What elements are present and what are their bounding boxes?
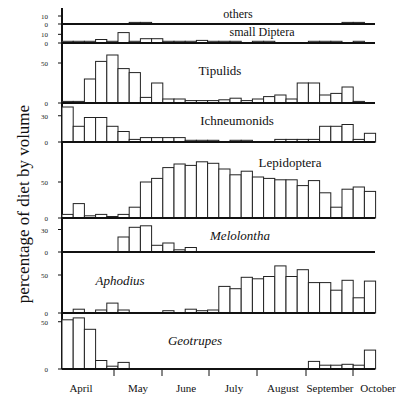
bar bbox=[84, 118, 95, 143]
bar bbox=[308, 181, 319, 218]
bar bbox=[62, 320, 73, 369]
bar bbox=[308, 361, 319, 369]
bar bbox=[320, 126, 331, 142]
x-month-label: June bbox=[176, 382, 196, 394]
x-month-label: July bbox=[225, 382, 244, 394]
bar bbox=[196, 162, 207, 218]
bar bbox=[174, 164, 185, 218]
x-month-label: August bbox=[267, 382, 299, 394]
bar bbox=[364, 133, 375, 142]
bar bbox=[252, 177, 263, 218]
bar bbox=[308, 83, 319, 103]
bar bbox=[129, 73, 140, 103]
bar bbox=[331, 207, 342, 218]
bar bbox=[275, 180, 286, 218]
bar bbox=[286, 180, 297, 218]
y-tick-label: 0 bbox=[45, 139, 49, 147]
bar bbox=[364, 350, 375, 369]
bar bbox=[152, 178, 163, 218]
bar bbox=[331, 290, 342, 313]
bar bbox=[140, 182, 151, 218]
bar bbox=[73, 318, 84, 369]
bar bbox=[107, 303, 118, 313]
bar bbox=[129, 227, 140, 252]
bar bbox=[219, 286, 230, 313]
bar bbox=[353, 298, 364, 313]
bar bbox=[185, 165, 196, 218]
bar bbox=[264, 178, 275, 218]
y-tick-label: 10 bbox=[41, 13, 49, 21]
bar bbox=[107, 126, 118, 142]
bar bbox=[264, 277, 275, 314]
bar bbox=[140, 226, 151, 252]
panel-label: Geotrupes bbox=[168, 333, 222, 348]
bar bbox=[275, 95, 286, 103]
bar bbox=[241, 171, 252, 218]
bar bbox=[84, 329, 95, 369]
y-tick-label: 50 bbox=[41, 179, 49, 187]
bar bbox=[84, 79, 95, 103]
bar bbox=[219, 169, 230, 218]
bar bbox=[320, 95, 331, 103]
y-tick-label: 50 bbox=[41, 272, 49, 280]
x-month-label: September bbox=[306, 382, 353, 394]
y-tick-label: 50 bbox=[41, 319, 49, 327]
bar bbox=[286, 277, 297, 314]
bar bbox=[129, 207, 140, 218]
bar bbox=[208, 163, 219, 218]
y-tick-label: 0 bbox=[45, 249, 49, 257]
bar bbox=[96, 361, 107, 370]
y-tick-label: 30 bbox=[41, 113, 49, 121]
bar bbox=[241, 277, 252, 313]
panel-label: others bbox=[223, 7, 253, 21]
bar bbox=[96, 118, 107, 143]
bar bbox=[73, 126, 84, 142]
bar bbox=[364, 191, 375, 218]
bar bbox=[118, 132, 129, 143]
bar bbox=[297, 270, 308, 313]
bar bbox=[320, 193, 331, 218]
bar bbox=[353, 187, 364, 218]
bar bbox=[163, 243, 174, 252]
bar bbox=[230, 175, 241, 218]
bar bbox=[342, 189, 353, 218]
x-month-label: October bbox=[360, 382, 396, 394]
bar bbox=[73, 204, 84, 218]
y-tick-label: 0 bbox=[45, 40, 49, 48]
panel-label: Aphodius bbox=[94, 273, 144, 288]
bar bbox=[297, 83, 308, 103]
bar bbox=[118, 33, 129, 43]
panel-others: 010others bbox=[41, 7, 375, 29]
bar bbox=[107, 55, 118, 103]
bar bbox=[152, 83, 163, 103]
y-tick-label: 50 bbox=[41, 60, 49, 68]
y-tick-label: 0 bbox=[45, 21, 49, 29]
panel-lepidoptera: 050Lepidoptera bbox=[41, 155, 376, 223]
panel-aphodius: 050Aphodius bbox=[41, 266, 376, 318]
bar bbox=[118, 69, 129, 103]
y-tick-label: 0 bbox=[45, 310, 49, 318]
panel-label: Lepidoptera bbox=[259, 155, 322, 170]
bar bbox=[342, 87, 353, 103]
x-month-label: May bbox=[128, 382, 149, 394]
panel-tipulids: 050Tipulids bbox=[41, 55, 375, 108]
y-tick-label: 0 bbox=[45, 366, 49, 374]
panel-label: Ichneumonids bbox=[200, 113, 274, 128]
panel-label: small Diptera bbox=[230, 25, 296, 39]
panel-ichneumonids: 030Ichneumonids bbox=[41, 107, 376, 147]
y-tick-label: 0 bbox=[45, 100, 49, 108]
bar bbox=[320, 283, 331, 313]
bar bbox=[118, 237, 129, 252]
panel-label: Tipulids bbox=[199, 63, 242, 78]
bar bbox=[331, 93, 342, 103]
bar bbox=[364, 281, 375, 313]
bar bbox=[342, 125, 353, 143]
bar bbox=[163, 168, 174, 218]
y-tick-label: 10 bbox=[41, 31, 49, 39]
panel-melolontha: 030Melolontha bbox=[41, 226, 375, 257]
y-tick-label: 30 bbox=[41, 227, 49, 235]
bar bbox=[308, 283, 319, 313]
bar bbox=[275, 266, 286, 313]
y-tick-label: 0 bbox=[45, 215, 49, 223]
panel-small-diptera: 010small Diptera bbox=[41, 25, 375, 48]
